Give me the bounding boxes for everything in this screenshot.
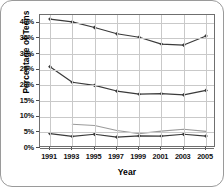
gridline-horizontal <box>40 54 214 55</box>
gridline-horizontal <box>40 101 214 102</box>
gridline-horizontal <box>40 23 214 24</box>
y-axis-tick-label: 25% <box>7 64 34 73</box>
gridline-horizontal <box>40 117 214 118</box>
y-axis-tick-label: 15% <box>7 96 34 105</box>
x-axis-tick-label: 2005 <box>190 152 220 161</box>
series-line-series-2 <box>50 67 206 95</box>
gridline-vertical <box>95 15 96 146</box>
y-axis-tick-label: 30% <box>7 49 34 58</box>
gridline-vertical <box>50 15 51 146</box>
gridline-horizontal <box>40 148 214 149</box>
gridline-vertical <box>161 15 162 146</box>
chart-card-frame: Percentage of Teens Year 0%5%10%15%20%25… <box>0 0 224 187</box>
gridline-vertical <box>184 15 185 146</box>
y-axis-tick-label: 35% <box>7 33 34 42</box>
line-chart: Percentage of Teens Year 0%5%10%15%20%25… <box>1 1 224 187</box>
y-axis-tick-label: 40% <box>7 17 34 26</box>
x-axis-title: Year <box>39 167 215 177</box>
gridline-vertical <box>117 15 118 146</box>
gridline-horizontal <box>40 38 214 39</box>
gridline-vertical <box>139 15 140 146</box>
gridline-vertical <box>206 15 207 146</box>
y-axis-tick-label: 10% <box>7 111 34 120</box>
y-axis-tick-label: 20% <box>7 80 34 89</box>
gridline-vertical <box>72 15 73 146</box>
gridline-horizontal <box>40 85 214 86</box>
series-lines <box>40 15 216 148</box>
gridline-horizontal <box>40 132 214 133</box>
y-axis-tick-label: 5% <box>7 127 34 136</box>
gridline-horizontal <box>40 70 214 71</box>
y-axis-tick-label: 0% <box>7 143 34 152</box>
plot-area <box>39 14 215 147</box>
